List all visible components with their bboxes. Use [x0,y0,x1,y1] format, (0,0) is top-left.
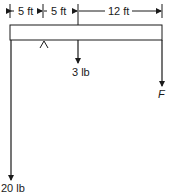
lever-diagram: 5 ft 5 ft 12 ft 20 lb 3 lb F [0,0,169,196]
dimension-label-seg3: 12 ft [108,5,129,17]
force-label-left: 20 lb [1,182,25,194]
fulcrum-icon [40,41,48,48]
dimension-label-seg2: 5 ft [51,5,66,17]
force-label-right: F [158,88,166,100]
force-label-middle: 3 lb [72,66,90,78]
dimension-label-seg1: 5 ft [18,5,33,17]
beam [10,25,162,40]
